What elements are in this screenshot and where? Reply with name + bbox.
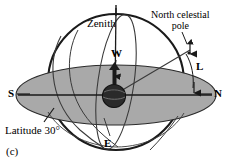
label-ncp-line1: North celestial [151, 9, 210, 20]
label-north: N [214, 88, 222, 100]
label-latitude-value: Latitude 30° [5, 125, 60, 137]
label-zenith: Zenith [87, 18, 116, 30]
celestial-sphere-figure: Zenith North celestial pole W E S N L La… [0, 0, 232, 165]
label-ncp-line2: pole [151, 21, 210, 32]
label-north-celestial-pole: North celestial pole [151, 10, 210, 31]
label-south: S [8, 88, 14, 100]
label-latitude-angle: L [196, 61, 203, 73]
label-panel-id: (c) [6, 146, 18, 158]
ncp-leader-line [182, 32, 187, 44]
label-east: E [104, 138, 111, 150]
north-celestial-pole-marker [187, 51, 190, 54]
label-west: W [111, 48, 122, 60]
observer-globe [103, 85, 126, 108]
